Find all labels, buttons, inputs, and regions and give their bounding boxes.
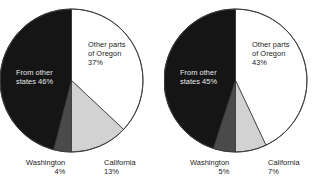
pie-left-svg — [0, 0, 164, 188]
pie-chart-right: Other parts of Oregon 43% From other sta… — [164, 0, 328, 188]
slice-label-california-name: California — [268, 158, 300, 167]
slice-label-other-states-line2: states 45% — [180, 77, 217, 86]
slice-label-other-states-line1: From other — [16, 68, 53, 77]
slice-label-california-pct: 13% — [104, 167, 136, 176]
slice-label-california-name: California — [104, 158, 136, 167]
slice-label-washington-pct: 5% — [190, 167, 229, 176]
slice-label-california: California 7% — [268, 158, 300, 176]
slice-label-washington-name: Washington — [26, 158, 65, 167]
slice-label-oregon-pct: 37% — [88, 58, 103, 67]
slice-label-california: California 13% — [104, 158, 136, 176]
slice-label-oregon-line2: of Oregon — [252, 49, 285, 58]
slice-label-washington: Washington 4% — [26, 158, 65, 176]
slice-label-other-states-line1: From other — [180, 68, 217, 77]
pie-chart-figure: Other parts of Oregon 37% From other sta… — [0, 0, 328, 188]
slice-label-oregon: Other parts of Oregon 37% — [88, 40, 126, 68]
slice-label-oregon-line1: Other parts — [252, 40, 290, 49]
slice-label-oregon-pct: 43% — [252, 58, 267, 67]
slice-label-other-states: From other states 46% — [16, 68, 53, 86]
pie-right-svg — [164, 0, 328, 188]
slice-label-washington: Washington 5% — [190, 158, 229, 176]
slice-label-oregon-line1: Other parts — [88, 40, 126, 49]
slice-label-california-pct: 7% — [268, 167, 300, 176]
slice-label-other-states: From other states 45% — [180, 68, 217, 86]
slice-label-other-states-line2: states 46% — [16, 77, 53, 86]
slice-label-washington-pct: 4% — [26, 167, 65, 176]
slice-label-washington-name: Washington — [190, 158, 229, 167]
pie-chart-left: Other parts of Oregon 37% From other sta… — [0, 0, 164, 188]
slice-label-oregon: Other parts of Oregon 43% — [252, 40, 290, 68]
slice-label-oregon-line2: of Oregon — [88, 49, 121, 58]
